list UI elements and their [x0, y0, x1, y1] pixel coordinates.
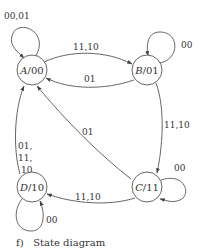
edge-a-a [11, 27, 39, 58]
state-a: A/00 [17, 55, 47, 85]
label-b-a: 01 [84, 74, 95, 84]
state-c: C/11 [132, 172, 162, 202]
caption: f) State diagram [16, 237, 106, 248]
state-a-name: A [19, 65, 27, 76]
state-diagram: 00,01 11,10 01 00 11,10 01 00 11,10 01, … [0, 0, 204, 250]
svg-text:D/10: D/10 [19, 182, 44, 193]
label-a-a: 00,01 [4, 11, 30, 21]
svg-text:B/01: B/01 [134, 65, 158, 76]
state-a-output: /00 [28, 65, 44, 76]
label-b-c: 11,10 [164, 120, 190, 130]
label-c-a: 01 [82, 127, 93, 137]
label-d-a-line2: 11, [18, 153, 32, 163]
label-c-c: 00 [174, 163, 186, 173]
edge-d-d [16, 199, 43, 231]
label-d-a-line1: 01, [18, 141, 32, 151]
edge-b-c [156, 83, 162, 173]
state-b-output: /01 [143, 65, 159, 76]
state-b-name: B [134, 65, 142, 76]
label-c-d: 11,10 [75, 192, 101, 202]
label-b-b: 00 [181, 40, 193, 50]
svg-text:A/00: A/00 [19, 65, 43, 76]
state-d-output: /10 [28, 182, 44, 193]
edge-a-b [44, 53, 132, 64]
state-b: B/01 [132, 55, 162, 85]
svg-text:C/11: C/11 [135, 182, 159, 193]
state-d: D/10 [17, 172, 47, 202]
state-d-name: D [19, 182, 28, 193]
state-c-output: /11 [143, 182, 159, 193]
label-d-d: 00 [46, 215, 58, 225]
edge-c-c [160, 178, 186, 201]
label-a-b: 11,10 [73, 42, 99, 52]
